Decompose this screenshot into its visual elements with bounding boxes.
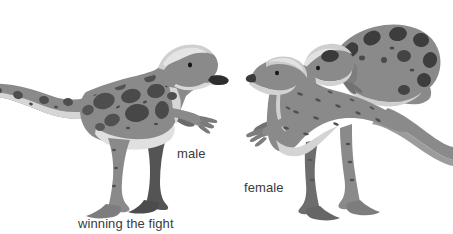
female-eye <box>275 71 279 76</box>
defeated-eye <box>316 66 320 70</box>
dinosaur-illustration-artwork <box>0 0 453 234</box>
label-male: male <box>177 146 206 161</box>
label-female: female <box>244 180 284 195</box>
label-winning-the-fight: winning the fight <box>78 216 174 231</box>
illustration-scene: male female winning the fight <box>0 0 453 234</box>
male-eye <box>188 63 192 68</box>
